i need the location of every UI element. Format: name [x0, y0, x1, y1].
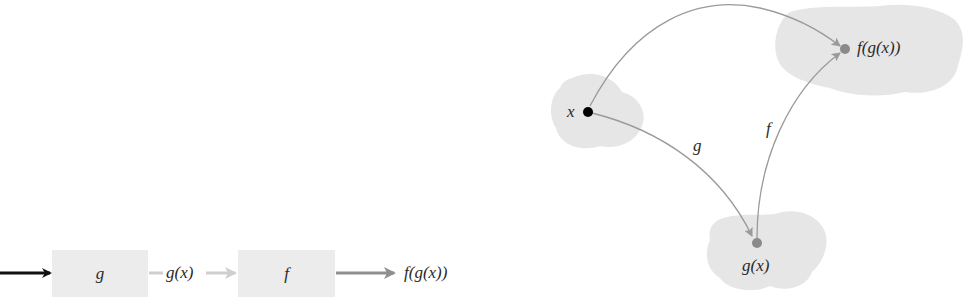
intermediate-value-label: g(x) [166, 264, 193, 281]
point-gx-dot [752, 238, 762, 248]
function-box-f: f [238, 250, 335, 297]
arrow-f-label: f [766, 120, 771, 137]
function-box-f-label: f [284, 264, 289, 281]
composition-figure: g f g(x) f(g(x)) x g(x) f(g(x)) g f [0, 0, 976, 305]
point-gx-label: g(x) [742, 257, 769, 274]
point-x-label: x [567, 103, 575, 120]
arrow-g-label: g [693, 137, 702, 154]
output-value-label: f(g(x)) [404, 264, 447, 281]
intermediate-blob [707, 211, 827, 290]
domain-blob [551, 74, 644, 148]
point-x-dot [583, 107, 593, 117]
point-fgx-label: f(g(x)) [857, 39, 900, 56]
function-box-g: g [52, 250, 148, 297]
point-fgx-dot [840, 44, 850, 54]
function-box-g-label: g [96, 264, 105, 281]
